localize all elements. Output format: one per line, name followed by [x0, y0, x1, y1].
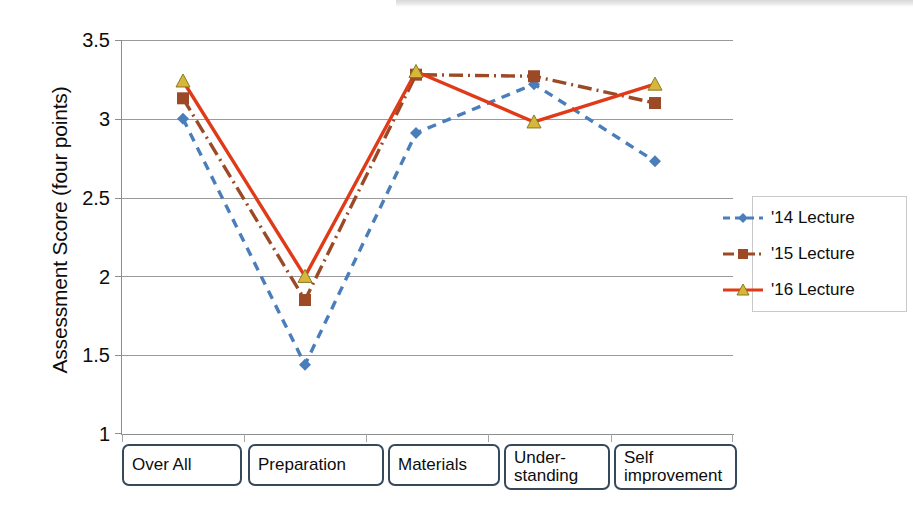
legend-swatch-15-lecture	[721, 246, 765, 262]
y-tick-label-1: 1	[48, 424, 110, 444]
x-tick-mark-0	[122, 434, 123, 442]
data-point-0-1	[299, 359, 311, 371]
y-tick-label-3: 3	[48, 109, 110, 129]
y-tick-label-2: 2	[48, 267, 110, 287]
y-tick-label-3.5: 3.5	[48, 30, 110, 50]
category-label-text: Under- standing	[514, 449, 578, 485]
y-tick-label-2.5: 2.5	[48, 188, 110, 208]
series-line-0	[183, 84, 655, 365]
y-tick-mark-1.5	[115, 355, 122, 356]
legend-item-15-lecture[interactable]: '15 Lecture	[753, 237, 906, 271]
y-tick-label-1.5: 1.5	[48, 345, 110, 365]
y-axis-title: Assessment Score (four points)	[48, 20, 72, 440]
legend-swatch-14-lecture	[721, 210, 765, 226]
legend-label-14-lecture: '14 Lecture	[771, 208, 855, 228]
legend-swatch-16-lecture	[721, 282, 765, 298]
data-point-0-2	[410, 127, 422, 139]
category-label-text: Self improvement	[624, 449, 722, 485]
y-tick-mark-2.5	[115, 198, 122, 199]
data-point-0-4	[649, 155, 661, 167]
legend-label-16-lecture: '16 Lecture	[771, 280, 855, 300]
x-tick-mark-4	[611, 434, 612, 442]
category-label-preparation: Preparation	[248, 444, 384, 486]
scan-artifact-band	[396, 0, 913, 7]
x-axis-line	[121, 434, 734, 435]
data-point-1-1	[299, 294, 311, 306]
plot-area	[122, 40, 733, 434]
line-chart: Assessment Score (four points) 3.5 3 2.5…	[0, 0, 913, 509]
legend: '14 Lecture '15 Lecture '16 Lecture	[752, 196, 907, 312]
category-label-text: Preparation	[258, 456, 346, 474]
x-tick-mark-3	[488, 434, 489, 442]
x-tick-mark-2	[366, 434, 367, 442]
data-point-2-4	[648, 77, 662, 90]
data-point-2-0	[176, 74, 190, 87]
y-tick-mark-1	[115, 433, 122, 434]
data-point-1-4	[649, 97, 661, 109]
data-point-1-3	[528, 70, 540, 82]
category-label-understanding: Under- standing	[504, 444, 610, 490]
category-label-materials: Materials	[388, 444, 500, 486]
y-tick-mark-2	[115, 276, 122, 277]
x-tick-mark-5	[732, 434, 733, 442]
category-label-text: Materials	[398, 456, 467, 474]
category-label-text: Over All	[132, 456, 192, 474]
legend-item-16-lecture[interactable]: '16 Lecture	[753, 273, 906, 307]
category-axis-labels: Over All Preparation Materials Under- st…	[122, 444, 737, 490]
y-tick-mark-3.5	[115, 40, 122, 41]
series-line-1	[183, 75, 655, 300]
series-line-2	[183, 72, 655, 277]
legend-label-15-lecture: '15 Lecture	[771, 244, 855, 264]
legend-item-14-lecture[interactable]: '14 Lecture	[753, 201, 906, 235]
category-label-self-improvement: Self improvement	[614, 444, 737, 490]
series-layer	[122, 40, 733, 434]
data-point-1-0	[177, 92, 189, 104]
data-point-0-0	[177, 113, 189, 125]
y-tick-mark-3	[115, 119, 122, 120]
x-tick-mark-1	[244, 434, 245, 442]
category-label-over-all: Over All	[122, 444, 242, 486]
